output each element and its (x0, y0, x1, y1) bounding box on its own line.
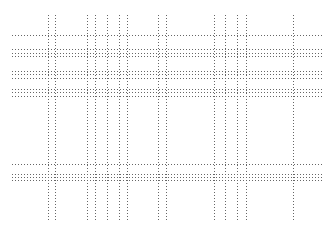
vertical-grid-lines (49, 15, 294, 222)
dotted-grid-diagram (0, 0, 332, 234)
grid-lines (0, 0, 332, 234)
